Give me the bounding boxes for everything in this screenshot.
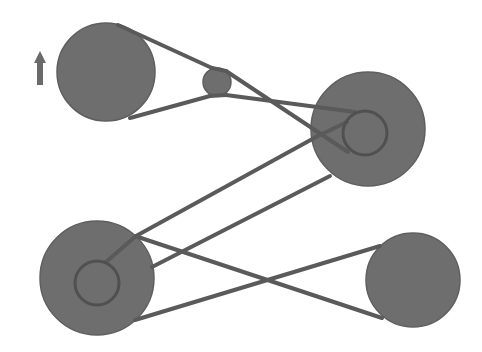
rotation-direction-arrow-icon: [34, 51, 46, 85]
belt-pulley-diagram: Belt and pulley drive system: [0, 0, 482, 352]
drive-pulley-top-left: [57, 23, 155, 121]
belt-segment: [138, 237, 382, 318]
belt-1-crossed: [118, 25, 355, 152]
pulleys-group: [40, 23, 460, 335]
belt-4-crossed: [135, 237, 382, 320]
belt-segment: [152, 176, 330, 267]
belt-3-hub-open: [106, 122, 347, 262]
belt-segment: [210, 95, 226, 96]
belt-segment: [136, 137, 316, 236]
